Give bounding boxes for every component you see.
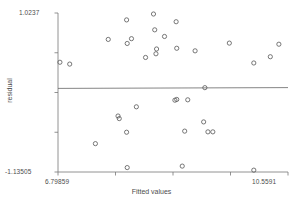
data-point <box>106 37 110 41</box>
data-point <box>186 98 190 102</box>
data-point <box>153 28 157 32</box>
data-point <box>93 142 97 146</box>
data-point <box>211 130 215 134</box>
data-point <box>125 165 129 169</box>
x-axis-max-tick-label: 10.5591 <box>252 178 276 185</box>
y-axis-max-tick-label: 1.0237 <box>19 9 39 16</box>
y-axis-ticks <box>55 13 59 172</box>
data-point <box>206 130 210 134</box>
data-point <box>180 164 184 168</box>
zero-reference-line <box>58 88 288 89</box>
data-point <box>183 129 187 133</box>
data-point <box>117 117 121 121</box>
data-point <box>125 41 129 45</box>
data-point <box>116 114 120 118</box>
x-axis-min-tick-label: 6.79859 <box>45 178 69 185</box>
data-point <box>134 105 138 109</box>
data-point <box>124 130 128 134</box>
data-point <box>58 60 62 64</box>
y-axis-min-tick-label: -1.13505 <box>5 168 31 175</box>
data-points-group <box>58 12 281 172</box>
data-point <box>202 120 206 124</box>
x-axis-title: Fitted values <box>0 188 303 195</box>
residual-plot-figure: 1.0237 -1.13505 6.79859 10.5591 Fitted v… <box>0 0 303 201</box>
data-point <box>277 42 281 46</box>
plot-axes <box>55 13 289 176</box>
data-point <box>175 46 179 50</box>
data-point <box>68 62 72 66</box>
data-point <box>162 34 166 38</box>
data-point <box>193 49 197 53</box>
data-point <box>252 61 256 65</box>
data-point <box>174 20 178 24</box>
data-point <box>268 55 272 59</box>
data-point <box>154 52 158 56</box>
scatter-plot-canvas <box>0 0 303 201</box>
data-point <box>154 47 158 51</box>
data-point <box>124 18 128 22</box>
data-point <box>151 12 155 16</box>
data-point <box>129 37 133 41</box>
data-point <box>143 55 147 59</box>
data-point <box>227 41 231 45</box>
y-axis-title: residual <box>6 63 13 119</box>
